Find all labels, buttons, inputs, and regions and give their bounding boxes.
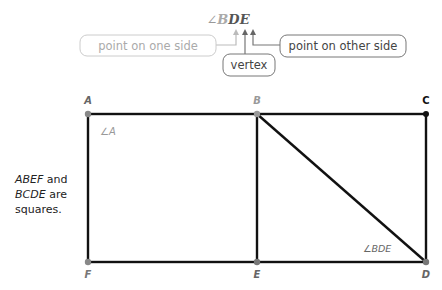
label-a: A [83, 95, 92, 106]
point-b [254, 111, 260, 117]
angle-a-label: ∠A [100, 126, 116, 137]
label-d: D [422, 269, 430, 280]
label-c: C [422, 95, 429, 106]
box-vertex-label: vertex [231, 58, 268, 72]
diagram-canvas: ∠BDE point on one side vertex point on o… [0, 0, 442, 290]
note-abef: ABEF [15, 173, 43, 186]
arrowhead-icon [242, 29, 248, 35]
arrow-side2 [253, 32, 280, 45]
point-e [254, 259, 260, 265]
point-f [85, 259, 91, 265]
note-bcde: BCDE [15, 188, 46, 201]
arrowhead-icon [233, 29, 239, 35]
point-d [423, 259, 429, 265]
note-text: squares. [15, 202, 68, 217]
point-c [423, 111, 429, 117]
note-text: are [46, 188, 67, 201]
label-e: E [254, 269, 261, 280]
angle-bde-label: ∠BDE [363, 243, 391, 254]
label-b: B [253, 95, 261, 106]
box-point-other-side-label: point on other side [289, 39, 398, 53]
arrowhead-icon [250, 29, 256, 35]
segment-bd [257, 114, 426, 262]
squares [88, 114, 426, 262]
box-point-one-side-label: point on one side [98, 39, 198, 53]
angle-notation: ∠BDE [206, 12, 250, 27]
label-f: F [85, 269, 92, 280]
point-a [85, 111, 91, 117]
arrow-side1 [216, 32, 236, 45]
squares-note: ABEF and BCDE are squares. [15, 172, 68, 217]
note-text: and [43, 173, 67, 186]
